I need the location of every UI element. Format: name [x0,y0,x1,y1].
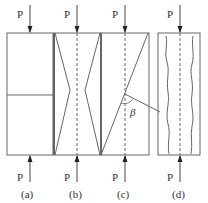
crack-left [166,36,169,154]
load-arrow-top [178,5,183,33]
panel-d: P P (d) [158,5,200,201]
load-arrow-bottom [28,155,33,182]
load-arrow-top [123,5,128,33]
load-label-top: P [17,8,23,20]
load-arrow-bottom [178,155,183,182]
caption-c: (c) [117,188,130,201]
crack-right [191,36,193,154]
load-label-bottom: P [64,171,70,183]
load-label-bottom: P [112,171,118,183]
caption-a: (a) [21,188,34,201]
cone-left [55,33,70,155]
load-arrow-top [75,5,80,33]
load-label-bottom: P [17,171,23,183]
panel-b: P P (b) [54,5,101,201]
panel-a: P P (a) [7,5,53,201]
load-label-top: P [64,8,70,20]
load-label-top: P [167,8,173,20]
panel-c: β P P (c) [101,5,160,201]
load-label-top: P [112,8,118,20]
load-arrow-top [28,5,33,33]
load-arrow-bottom [123,155,128,182]
caption-d: (d) [172,188,185,201]
failure-modes-diagram: P P (a) P P (b) [0,0,208,203]
load-label-bottom: P [167,171,173,183]
caption-b: (b) [69,188,82,201]
load-arrow-bottom [75,155,80,182]
cone-right [85,33,100,155]
angle-label-beta: β [129,106,136,118]
